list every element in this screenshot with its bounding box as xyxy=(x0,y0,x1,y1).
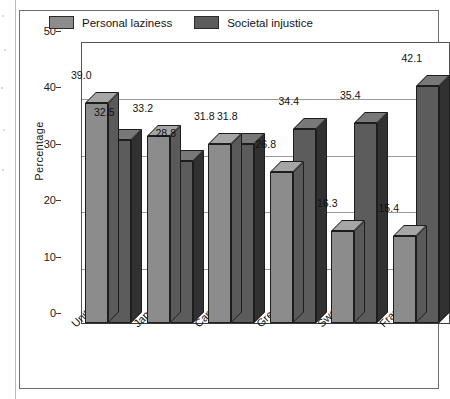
bar-front-face xyxy=(331,231,354,323)
value-label: 15.4 xyxy=(379,202,399,214)
bar-side-face xyxy=(293,161,304,323)
legend-swatch-icon xyxy=(194,16,219,29)
bar-side-face xyxy=(231,133,242,323)
bar-side-face xyxy=(439,75,450,323)
plot-area xyxy=(81,42,450,324)
value-label: 31.8 xyxy=(217,110,237,122)
bar-front-face xyxy=(393,236,416,323)
value-label: 26.8 xyxy=(256,138,276,150)
value-label: 28.8 xyxy=(156,127,176,139)
scan-artifact-speckle xyxy=(0,10,8,190)
y-axis-tick-mark xyxy=(56,144,61,145)
bar-front-face xyxy=(85,103,108,323)
bar-side-face xyxy=(354,220,365,323)
y-axis-tick-label: 40 xyxy=(44,81,56,93)
bar-front-face xyxy=(270,172,293,323)
bar-side-face xyxy=(416,225,427,323)
legend-swatch-icon xyxy=(49,16,74,29)
bar-side-face xyxy=(316,118,327,323)
bar-1-3 xyxy=(208,144,231,323)
y-axis-tick-mark xyxy=(56,31,61,32)
bar-side-face xyxy=(193,150,204,323)
y-axis-tick-label: 30 xyxy=(44,138,56,150)
legend-label: Personal laziness xyxy=(82,17,172,29)
bar-side-face xyxy=(131,129,142,323)
y-axis-tick-labels: 01020304050 xyxy=(28,0,56,399)
bar-side-face xyxy=(377,112,388,323)
y-axis-tick-label: 20 xyxy=(44,194,56,206)
legend-item-2[interactable]: Societal injustice xyxy=(194,16,313,29)
legend-label: Societal injustice xyxy=(227,17,313,29)
value-label: 35.4 xyxy=(340,89,360,101)
y-axis-tick-mark xyxy=(56,313,61,314)
y-axis-tick-label: 10 xyxy=(44,251,56,263)
value-label: 42.1 xyxy=(402,52,422,64)
y-axis-tick-mark xyxy=(56,200,61,201)
bars-group xyxy=(82,43,449,323)
bar-1-2 xyxy=(147,136,170,323)
bar-front-face xyxy=(208,144,231,323)
y-axis-tick-mark xyxy=(56,87,61,88)
value-label: 33.2 xyxy=(133,102,153,114)
value-label: 39.0 xyxy=(71,69,91,81)
value-label: 32.5 xyxy=(94,106,114,118)
value-label: 31.8 xyxy=(194,110,214,122)
bar-1-6 xyxy=(393,236,416,323)
y-axis-tick-mark xyxy=(56,257,61,258)
value-label: 34.4 xyxy=(279,95,299,107)
y-axis-title: Percentage xyxy=(33,106,45,196)
value-label: 16.3 xyxy=(317,197,337,209)
chart-legend: Personal lazinessSocietal injustice xyxy=(49,16,313,29)
bar-side-face xyxy=(170,125,181,323)
bar-1-1 xyxy=(85,103,108,323)
figure-frame xyxy=(19,10,439,389)
legend-item-1[interactable]: Personal laziness xyxy=(49,16,172,29)
bar-side-face xyxy=(108,92,119,323)
scan-artifact-edge-line xyxy=(15,0,16,399)
bar-side-face xyxy=(254,133,265,323)
bar-front-face xyxy=(147,136,170,323)
bar-1-5 xyxy=(331,231,354,323)
bar-1-4 xyxy=(270,172,293,323)
